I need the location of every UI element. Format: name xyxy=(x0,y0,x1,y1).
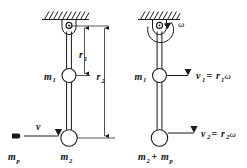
label-v2-r2: r xyxy=(221,128,225,139)
label-group-m1-left: m 1 xyxy=(44,71,56,84)
label-mp-sub: p xyxy=(16,157,21,164)
label-m1-right-sub: 1 xyxy=(143,76,146,83)
rod-upper-left xyxy=(67,32,72,70)
label-group-mp-left: m p xyxy=(8,151,21,164)
label-v1-omega: ω xyxy=(225,71,231,81)
label-mp: m xyxy=(8,151,16,162)
label-mp-right: m xyxy=(161,151,169,162)
label-v2-omega: ω xyxy=(230,129,236,139)
velocity-v-arrow: v xyxy=(24,121,59,136)
hatch-lines-left xyxy=(45,12,90,20)
mass-m1-right xyxy=(153,69,167,83)
label-v1-equals: = xyxy=(207,70,213,81)
label-m2-right-sub: 2 xyxy=(146,157,151,164)
label-m2: m xyxy=(61,151,69,162)
dimension-r2: r 2 xyxy=(97,28,106,136)
label-v2-equals: = xyxy=(212,128,218,139)
label-m2-right: m xyxy=(138,151,146,162)
label-omega: ω xyxy=(178,19,184,29)
label-r1-sub: 1 xyxy=(84,55,87,62)
label-m1-right: m xyxy=(135,71,143,82)
figure-canvas: r 1 r 2 v m 1 xyxy=(0,0,247,168)
right-panel: ω v 1 = xyxy=(135,12,236,164)
label-r2: r xyxy=(97,71,101,82)
label-v1-r1: r xyxy=(216,70,220,81)
pulley-axle-dot-right xyxy=(159,25,161,27)
label-m2-sub: 2 xyxy=(68,157,73,164)
label-v2: v xyxy=(201,128,206,139)
mass-m2-mp-right xyxy=(151,130,167,146)
label-v1-sub: 1 xyxy=(202,76,205,83)
label-m1-sub: 1 xyxy=(53,76,56,83)
left-panel: r 1 r 2 v m 1 xyxy=(8,12,115,164)
rod-upper-right xyxy=(157,32,162,70)
label-group-m1-right: m 1 xyxy=(135,71,147,84)
dimension-r1: r 1 xyxy=(79,28,87,74)
projectile-mp xyxy=(12,134,20,139)
label-v2-sub: 2 xyxy=(206,133,211,140)
ceiling-support-right xyxy=(138,12,180,20)
pulley-right xyxy=(153,20,167,35)
label-mp-right-sub: p xyxy=(169,157,174,164)
label-m1: m xyxy=(44,71,52,82)
pulley-left xyxy=(62,20,76,35)
rod-lower-right xyxy=(157,82,162,130)
rod-lower-left xyxy=(67,82,72,130)
equation-v1: v 1 = r 1 ω xyxy=(196,70,231,83)
mass-m1-left xyxy=(62,69,76,83)
mass-m2-left xyxy=(61,130,77,146)
label-v1: v xyxy=(196,70,201,81)
hatch-lines-right xyxy=(141,12,181,20)
label-group-m2-left: m 2 xyxy=(61,151,74,164)
equation-v2: v 2 = r 2 ω xyxy=(201,128,236,141)
label-plus-sign: + xyxy=(152,151,158,162)
label-group-m2-mp: m 2 + m p xyxy=(138,151,174,164)
physics-figure: r 1 r 2 v m 1 xyxy=(0,0,247,168)
ceiling-support-left xyxy=(42,12,89,20)
label-r1: r xyxy=(79,49,83,60)
label-v: v xyxy=(36,121,41,132)
